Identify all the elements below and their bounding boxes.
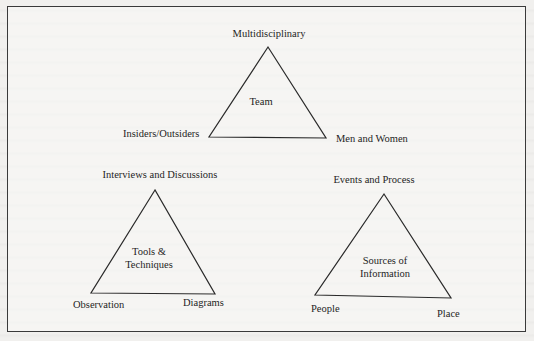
- tools-bottom-right-label: Diagrams: [183, 297, 224, 309]
- sources-center-label-line2: Information: [360, 267, 410, 280]
- sources-bottom-right-label: Place: [437, 308, 460, 320]
- sources-bottom-left-label: People: [311, 303, 340, 315]
- team-center-label: Team: [249, 95, 272, 108]
- triangles-diagram: [0, 0, 534, 341]
- tools-top-label: Interviews and Discussions: [103, 169, 218, 181]
- tools-center-label-line2: Techniques: [125, 258, 173, 271]
- sources-top-label: Events and Process: [333, 174, 414, 186]
- team-bottom-right-label: Men and Women: [336, 133, 408, 145]
- sources-center-label-line1: Sources of: [363, 254, 408, 267]
- team-triangle: [209, 47, 326, 138]
- sources-triangle: [315, 194, 451, 298]
- tools-center-label-line1: Tools &: [132, 245, 166, 258]
- tools-triangle: [91, 190, 215, 294]
- tools-bottom-left-label: Observation: [73, 299, 124, 311]
- team-top-label: Multidisciplinary: [233, 28, 306, 40]
- team-bottom-left-label: Insiders/Outsiders: [123, 128, 199, 140]
